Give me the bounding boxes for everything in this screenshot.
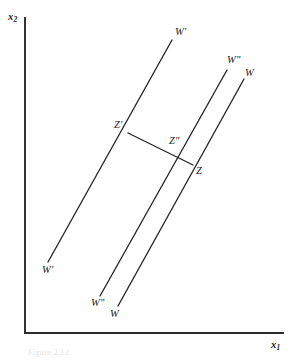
w-prime-line (48, 40, 172, 262)
figure-canvas: x2 x1 W′ W′ W″ W″ W W Z′ Z″ Z Figure 2.1… (0, 0, 299, 360)
x-axis-label: x1 (271, 340, 280, 351)
w-prime-bottom-label: W′ (42, 265, 53, 276)
z-point-label: Z (196, 166, 202, 177)
w-double-prime-bottom-label: W″ (91, 298, 105, 309)
w-bottom-label: W (110, 309, 119, 320)
w-double-prime-line (100, 70, 227, 296)
z-prime-point-label: Z′ (114, 120, 123, 131)
y-axis-label-subscript: 2 (13, 15, 17, 24)
w-prime-top-label: W′ (175, 27, 186, 38)
y-axis-label: x2 (8, 12, 17, 23)
w-top-label: W (245, 68, 254, 79)
w-double-prime-top-label: W″ (227, 55, 241, 66)
diagram-svg (0, 0, 299, 360)
z-double-prime-point-label: Z″ (169, 136, 180, 147)
w-line (118, 79, 244, 306)
figure-caption: Figure 2.12 (28, 348, 69, 357)
x-axis-label-subscript: 1 (276, 343, 280, 352)
